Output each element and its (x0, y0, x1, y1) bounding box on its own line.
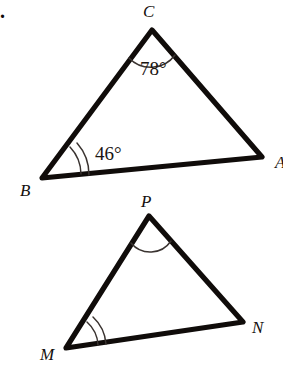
triangle-abc: C A B 78° 46° (20, 2, 283, 200)
vertex-label-p: P (140, 192, 151, 211)
vertex-label-m: M (39, 345, 55, 364)
vertex-label-b: B (20, 181, 31, 200)
triangle-mnp: P N M (39, 192, 265, 364)
vertex-label-c: C (143, 2, 155, 21)
angle-arc-p-1 (131, 241, 171, 252)
geometry-canvas: . C A B 78° 46° P N (0, 0, 283, 366)
vertex-label-a: A (274, 153, 283, 172)
vertex-label-n: N (251, 318, 265, 337)
angle-measure-c: 78° (140, 58, 167, 79)
triangle-abc-outline (42, 30, 262, 178)
item-number-marker: . (0, 0, 5, 22)
angle-arc-b-1 (70, 147, 81, 174)
geometry-figure: . C A B 78° 46° P N (0, 0, 283, 366)
angle-arc-b-2 (77, 143, 89, 175)
angle-measure-b: 46° (95, 143, 122, 164)
